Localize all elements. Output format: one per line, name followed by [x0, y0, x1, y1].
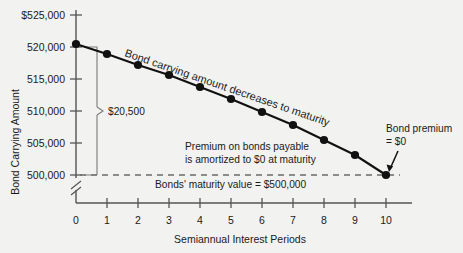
data-point-0: [72, 40, 80, 48]
y-tick-label-515000: 515,000: [27, 73, 65, 85]
data-point-7: [289, 121, 297, 129]
y-axis-title: Bond Carrying Amount: [9, 89, 21, 195]
x-tick-label-4: 4: [197, 214, 203, 226]
curve-label: Bond carrying amount decreases to maturi…: [123, 47, 331, 129]
x-tick-label-6: 6: [259, 214, 265, 226]
data-point-10: [382, 171, 390, 179]
data-point-8: [320, 136, 328, 144]
x-tick-label-0: 0: [73, 214, 79, 226]
maturity-value-label: Bonds' maturity value = $500,000: [155, 179, 307, 190]
chart-figure: Bond Carrying Amount $525,000 520,000 51…: [0, 0, 463, 253]
x-tick-label-10: 10: [380, 214, 392, 226]
y-tick-label-525000: $525,000: [21, 9, 65, 21]
y-tick-label-505000: 505,000: [27, 137, 65, 149]
x-tick-label-7: 7: [290, 214, 296, 226]
premium-bracket-label: $20,500: [108, 106, 145, 117]
y-tick-label-500000: 500,000: [27, 169, 65, 181]
premium-note-line-1: Premium on bonds payable: [185, 141, 309, 152]
data-point-1: [103, 50, 111, 58]
x-tick-label-9: 9: [352, 214, 358, 226]
data-point-5: [227, 95, 235, 103]
x-tick-label-2: 2: [135, 214, 141, 226]
data-point-9: [351, 151, 359, 159]
x-tick-label-5: 5: [228, 214, 234, 226]
x-tick-label-8: 8: [321, 214, 327, 226]
x-tick-label-1: 1: [104, 214, 110, 226]
bond-premium-label-line-2: = $0: [386, 136, 406, 147]
bond-amortization-chart: Bond Carrying Amount $525,000 520,000 51…: [0, 0, 463, 253]
y-tick-label-520000: 520,000: [27, 41, 65, 53]
bond-premium-label-line-1: Bond premium: [386, 123, 452, 134]
y-tick-label-510000: 510,000: [27, 105, 65, 117]
premium-bracket: [84, 47, 103, 175]
data-point-6: [258, 108, 266, 116]
premium-note-line-2: is amortized to $0 at maturity: [185, 154, 317, 165]
x-axis-title: Semiannual Interest Periods: [174, 233, 306, 245]
x-tick-label-3: 3: [166, 214, 172, 226]
